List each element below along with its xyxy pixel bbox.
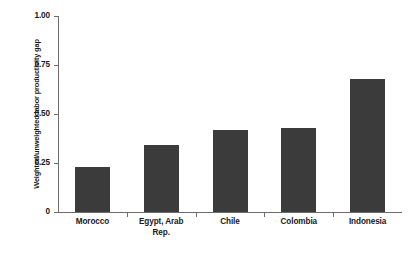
category-label: Egypt, ArabRep. — [127, 217, 196, 238]
bar — [213, 130, 248, 212]
bar — [144, 145, 179, 212]
bar — [281, 128, 316, 212]
y-tick-label-wrap: 1.00 — [14, 12, 50, 21]
bar-chart: Weighted/unweighted labor productivity g… — [0, 0, 415, 255]
y-tick-label: 1.00 — [16, 12, 50, 20]
category-label: Colombia — [264, 217, 333, 228]
y-tick-label: 0.75 — [16, 61, 50, 69]
y-tick-label: 0.25 — [16, 159, 50, 167]
category-label-line: Rep. — [127, 228, 196, 239]
bars-layer — [58, 16, 402, 212]
y-tick-label-wrap: 0.50 — [14, 110, 50, 119]
category-label-line: Egypt, Arab — [127, 217, 196, 228]
y-tick-label-wrap: 0 — [14, 208, 50, 217]
category-label: Indonesia — [333, 217, 402, 228]
category-label-line: Chile — [196, 217, 265, 228]
y-tick-label: 0 — [16, 208, 50, 216]
y-tick-label-wrap: 0.75 — [14, 61, 50, 70]
category-label: Chile — [196, 217, 265, 228]
category-label-line: Indonesia — [333, 217, 402, 228]
category-label-line: Colombia — [264, 217, 333, 228]
category-label: Morocco — [58, 217, 127, 228]
x-axis-line — [58, 212, 402, 213]
y-tick-label: 0.50 — [16, 110, 50, 118]
y-tick-label-wrap: 0.25 — [14, 159, 50, 168]
y-tick-mark — [54, 212, 58, 213]
bar — [75, 167, 110, 212]
category-label-line: Morocco — [58, 217, 127, 228]
bar — [350, 79, 385, 212]
